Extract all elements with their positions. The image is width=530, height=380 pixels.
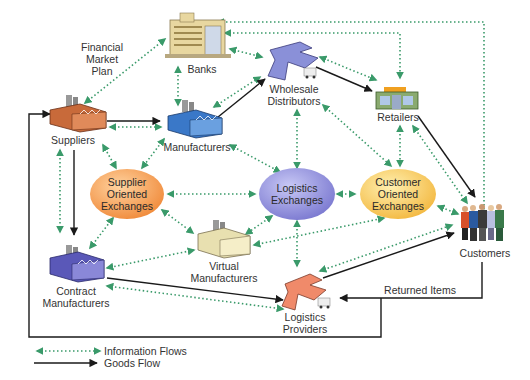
factory-orange-icon	[50, 95, 106, 132]
customer-exchange-text: CustomerOrientedExchanges	[360, 169, 436, 219]
retailers-label: Retailers	[375, 111, 421, 123]
manufacturers-label: Manufacturers	[160, 141, 234, 153]
virtual-manufacturers-label: Virtual Manufacturers	[186, 260, 262, 284]
factory-cream-icon	[198, 220, 250, 258]
legend-goods-flow: Goods Flow	[104, 357, 160, 369]
warehouse-blue-icon	[268, 42, 318, 80]
wholesale-distributors-label: Wholesale Distributors	[258, 83, 330, 107]
logistics-providers-label: Logistics Providers	[280, 311, 330, 335]
people-group-icon	[461, 204, 504, 241]
legend-information-flows: Information Flows	[104, 345, 187, 357]
supplier-exchange-text: SupplierOrientedExchanges	[90, 169, 164, 219]
factory-blue-icon	[168, 100, 222, 138]
factory-purple-icon	[50, 245, 104, 282]
returned-items-label: Returned Items	[380, 284, 460, 296]
contract-manufacturers-label: Contract Manufacturers	[40, 285, 112, 309]
logistics-exchange-text: LogisticsExchanges	[259, 168, 335, 220]
bank-building-icon	[165, 13, 231, 58]
store-icon	[376, 87, 418, 109]
financial-market-plan-label: Financial Market Plan	[76, 41, 128, 77]
warehouse-orange-icon	[282, 274, 330, 310]
customers-label: Customers	[455, 247, 515, 259]
banks-label: Banks	[182, 63, 222, 75]
suppliers-label: Suppliers	[48, 134, 98, 146]
